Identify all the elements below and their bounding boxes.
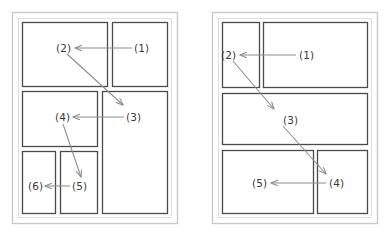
diagram-canvas: (1) (2) (3) (4) (5) (6) (1) (2) (3) (4) …	[0, 0, 390, 239]
region-left-top-right	[113, 23, 168, 87]
region-left-top-left	[23, 23, 108, 87]
callout-label-left-3: (3)	[126, 112, 141, 123]
callout-label-left-6: (6)	[28, 181, 43, 192]
callout-label-left-1: (1)	[134, 43, 149, 54]
region-left-right-tall	[103, 92, 168, 214]
callout-label-left-4: (4)	[55, 112, 70, 123]
callout-label-right-5: (5)	[252, 178, 267, 189]
callout-label-right-1: (1)	[299, 50, 314, 61]
region-right-bottom-left	[223, 151, 314, 214]
callout-label-right-3: (3)	[283, 115, 298, 126]
callout-label-right-4: (4)	[329, 178, 344, 189]
callout-label-right-2: (2)	[221, 50, 236, 61]
callout-label-left-2: (2)	[56, 43, 71, 54]
callout-label-left-5: (5)	[72, 181, 87, 192]
